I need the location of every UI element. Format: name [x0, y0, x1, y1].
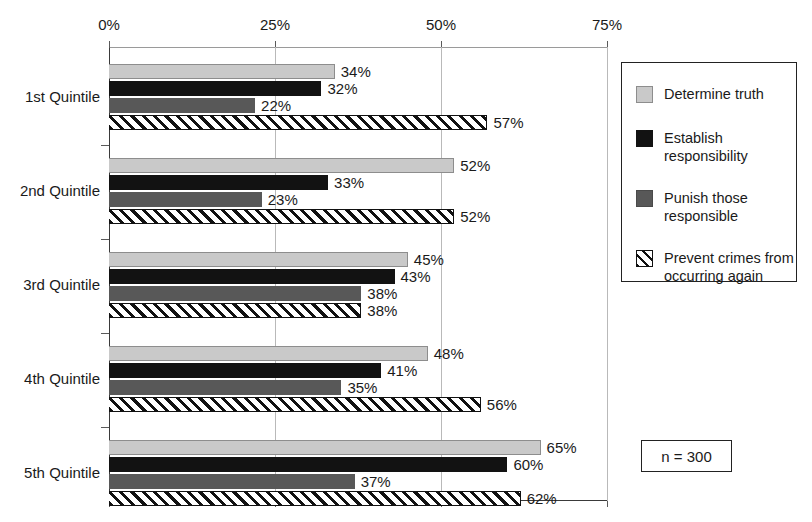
legend-label: Determine truth	[664, 85, 764, 103]
y-tick-mark	[101, 239, 109, 240]
bar	[109, 363, 381, 378]
bar	[109, 457, 507, 472]
bar	[109, 346, 428, 361]
legend: Determine truthEstablish responsibilityP…	[621, 62, 797, 282]
bar-value-label: 41%	[387, 363, 417, 378]
axis-top-line	[109, 47, 607, 48]
legend-swatch-icon	[636, 130, 653, 147]
bar-value-label: 52%	[460, 209, 490, 224]
x-tick-label: 75%	[592, 16, 622, 33]
bar	[109, 252, 408, 267]
bar	[109, 64, 335, 79]
bar-value-label: 38%	[367, 303, 397, 318]
bar-value-label: 60%	[513, 457, 543, 472]
bar-value-label: 34%	[341, 64, 371, 79]
category-label: 2nd Quintile	[0, 182, 100, 199]
chart-root: 0%25%50%75% 1st Quintile2nd Quintile3rd …	[0, 0, 812, 522]
bar-value-label: 65%	[547, 440, 577, 455]
bar	[109, 98, 255, 113]
bar	[109, 491, 521, 506]
bar-value-label: 32%	[327, 81, 357, 96]
legend-label: Prevent crimes from occurring again	[664, 249, 794, 285]
bar	[109, 440, 541, 455]
x-tick-mark-top	[109, 41, 110, 48]
legend-swatch-icon	[636, 86, 653, 103]
bar	[109, 397, 481, 412]
bar-value-label: 62%	[527, 491, 557, 506]
bar	[109, 303, 361, 318]
y-tick-mark	[101, 333, 109, 334]
bar	[109, 380, 341, 395]
bar-value-label: 45%	[414, 252, 444, 267]
legend-label: Establish responsibility	[664, 129, 748, 165]
bar-value-label: 23%	[268, 192, 298, 207]
bar-value-label: 43%	[401, 269, 431, 284]
category-label: 3rd Quintile	[0, 276, 100, 293]
legend-item: Establish responsibility	[636, 129, 748, 165]
legend-item: Prevent crimes from occurring again	[636, 249, 794, 285]
bar	[109, 158, 454, 173]
bar-value-label: 33%	[334, 175, 364, 190]
x-tick-label: 25%	[260, 16, 290, 33]
category-label: 4th Quintile	[0, 370, 100, 387]
bar-value-label: 56%	[487, 397, 517, 412]
bar	[109, 209, 454, 224]
x-tick-mark-bottom	[607, 500, 608, 507]
legend-swatch-icon	[636, 190, 653, 207]
bar	[109, 115, 487, 130]
bar-value-label: 35%	[347, 380, 377, 395]
sample-size-label: n = 300	[661, 448, 711, 465]
legend-item: Punish those responsible	[636, 189, 748, 225]
category-label: 1st Quintile	[0, 88, 100, 105]
bar-value-label: 22%	[261, 98, 291, 113]
y-tick-mark	[101, 427, 109, 428]
bar	[109, 474, 355, 489]
bar	[109, 175, 328, 190]
bar	[109, 286, 361, 301]
bar-value-label: 57%	[493, 115, 523, 130]
bar	[109, 81, 321, 96]
bar-value-label: 48%	[434, 346, 464, 361]
y-tick-mark	[101, 145, 109, 146]
legend-label: Punish those responsible	[664, 189, 748, 225]
legend-swatch-icon	[636, 250, 653, 267]
category-label: 5th Quintile	[0, 464, 100, 481]
x-tick-label: 50%	[426, 16, 456, 33]
legend-item: Determine truth	[636, 85, 764, 103]
bar-value-label: 52%	[460, 158, 490, 173]
bar-value-label: 38%	[367, 286, 397, 301]
bar	[109, 269, 395, 284]
sample-size-box: n = 300	[641, 440, 732, 472]
bar	[109, 192, 262, 207]
x-tick-label: 0%	[98, 16, 120, 33]
gridline	[607, 47, 608, 501]
bar-value-label: 37%	[361, 474, 391, 489]
